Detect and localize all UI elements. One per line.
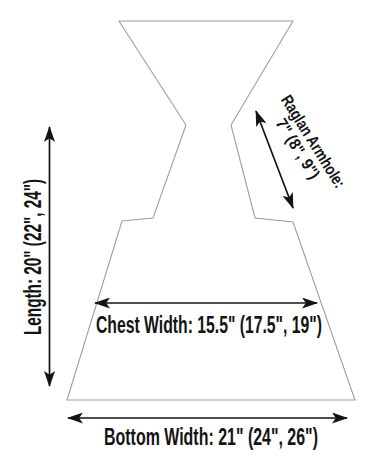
raglan-armhole-label: Raglan Armhole: 7" (8", 9") — [263, 92, 349, 200]
garment-outline — [67, 21, 355, 400]
schematic-figure: Length: 20" (22", 24") Chest Width: 15.5… — [0, 0, 376, 461]
schematic-canvas: Length: 20" (22", 24") Chest Width: 15.5… — [0, 0, 376, 461]
chest-width-label: Chest Width: 15.5" (17.5", 19") — [96, 312, 322, 338]
length-label: Length: 20" (22", 24") — [20, 179, 46, 335]
bottom-width-label: Bottom Width: 21" (24", 26") — [104, 424, 318, 450]
